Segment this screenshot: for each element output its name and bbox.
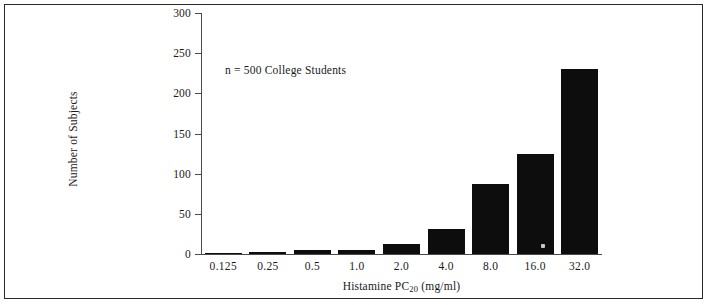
y-axis-tick-label-text: 200	[155, 87, 191, 99]
bar-4.0	[428, 229, 465, 254]
y-axis-tick	[195, 93, 201, 94]
bar-0.5	[294, 250, 331, 254]
y-axis-tick-label-text: 300	[155, 7, 191, 19]
bar-2.0	[383, 244, 420, 254]
y-axis-tick	[195, 13, 201, 14]
y-axis-tick	[195, 254, 201, 255]
y-axis-tick-label: 300	[155, 7, 191, 19]
y-axis-tick-label: 250	[155, 47, 191, 59]
y-axis-title: Number of Subjects	[67, 49, 79, 229]
y-axis-tick-label: 0	[155, 248, 191, 260]
x-axis-spine	[201, 254, 602, 255]
y-axis-tick-label-text: 0	[155, 248, 191, 260]
x-axis-tick-label: 32.0	[552, 260, 608, 272]
y-axis-tick-label: 150	[155, 128, 191, 140]
scan-artifact-speck	[541, 244, 545, 248]
y-axis-tick	[195, 53, 201, 54]
bar-1.0	[338, 250, 375, 254]
y-axis-tick-label: 100	[155, 168, 191, 180]
y-axis-tick-label-text: 150	[155, 128, 191, 140]
y-axis-tick-label: 50	[155, 208, 191, 220]
y-axis-tick-label: 200	[155, 87, 191, 99]
bar-0.125	[205, 253, 242, 255]
bar-32.0	[561, 69, 598, 254]
y-axis-tick	[195, 174, 201, 175]
figure-frame: 050100150200250300 Number of Subjects 0.…	[4, 4, 703, 299]
bar-0.25	[249, 252, 286, 254]
bar-16.0	[517, 154, 554, 254]
y-axis-tick-label-text: 50	[155, 208, 191, 220]
y-axis-tick-label-text: 250	[155, 47, 191, 59]
sample-size-annotation: n = 500 College Students	[225, 64, 346, 76]
x-axis-title: Histamine PC20 (mg/ml)	[201, 280, 602, 292]
chart-plot-area: 050100150200250300 Number of Subjects 0.…	[5, 5, 704, 300]
bar-8.0	[472, 184, 509, 254]
x-axis-title-subscript: 20	[409, 284, 418, 294]
x-axis-title-main: Histamine PC	[343, 280, 410, 292]
x-axis-title-unit: (mg/ml)	[418, 280, 460, 292]
y-axis-tick	[195, 214, 201, 215]
y-axis-spine	[201, 13, 202, 254]
y-axis-tick	[195, 134, 201, 135]
y-axis-tick-label-text: 100	[155, 168, 191, 180]
